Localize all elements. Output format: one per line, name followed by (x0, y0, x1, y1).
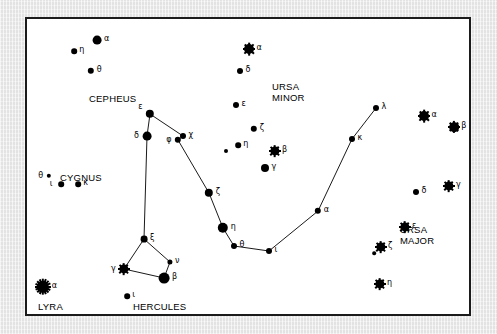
bayer-label-dra-eps: ε (138, 103, 142, 111)
star-dot (349, 136, 355, 142)
bayer-label-lyr-alpha: α (52, 282, 57, 290)
bayer-label-cep-eta: η (79, 46, 84, 54)
star-dot (233, 102, 239, 108)
bayer-label-her-beta: β (172, 273, 177, 281)
bayer-label-uma-alpha: α (432, 111, 437, 119)
bayer-label-umi-delta: δ (246, 66, 251, 74)
bayer-label-dra-alpha: α (324, 206, 329, 214)
star-dot (235, 142, 241, 148)
constellation-name-hercules: HERCULES (133, 301, 186, 312)
star-chart-frame: αηθαδεζηβγαβγδεζηλκαιθηζχφεδξνβγιθικα CE… (25, 17, 471, 316)
star-dot (88, 68, 94, 74)
bayer-label-umi-alpha: α (257, 44, 262, 52)
star-dot (419, 111, 429, 121)
star-dot (251, 126, 257, 132)
star-dot (159, 273, 170, 284)
bayer-label-dra-theta: θ (240, 241, 245, 249)
star-dot (175, 137, 181, 143)
bayer-label-cyg-theta: θ (38, 172, 43, 180)
star-dot (261, 164, 269, 172)
bayer-label-cep-alpha: α (104, 35, 109, 43)
star-dot (180, 133, 186, 139)
star-dot (143, 132, 152, 141)
bayer-label-uma-eta: η (387, 279, 392, 287)
constellation-name-lyra: LYRA (38, 301, 63, 312)
star-dot (413, 189, 419, 195)
star-dot (244, 44, 254, 54)
star-dot (237, 68, 243, 74)
bayer-label-uma-gamma: γ (456, 181, 461, 189)
star-dot (47, 174, 51, 178)
star-dot (141, 236, 148, 243)
bayer-label-dra-kappa: κ (358, 134, 363, 142)
bayer-label-dra-eta: η (231, 223, 236, 231)
star-dot (71, 48, 77, 54)
star-dot (315, 208, 321, 214)
star-dot (124, 293, 130, 299)
star-dot (373, 105, 379, 111)
star-dot (224, 149, 228, 153)
bayer-label-her-xi: ξ (150, 234, 154, 242)
bayer-label-uma-beta: β (461, 122, 466, 130)
bayer-label-dra-zeta: ζ (216, 188, 220, 196)
bayer-label-uma-delta: δ (422, 187, 427, 195)
constellation-name-ursa-minor: URSA MINOR (272, 81, 305, 103)
star-dot (218, 223, 228, 233)
constellation-name-cygnus: CYGNUS (60, 172, 102, 183)
bayer-label-umi-zeta: ζ (260, 124, 264, 132)
bayer-label-uma-zeta: ζ (388, 242, 392, 250)
bayer-label-umi-eta: η (243, 140, 248, 148)
bayer-label-umi-eps: ε (242, 100, 246, 108)
constellation-name-cepheus: CEPHEUS (89, 93, 136, 104)
star-dot (372, 251, 376, 255)
bayer-label-dra-iota: ι (275, 246, 278, 254)
bayer-label-umi-beta: β (282, 146, 287, 154)
bayer-label-dra-delta: δ (134, 132, 139, 140)
bayer-label-her-iota: ι (132, 291, 135, 299)
star-dot (93, 36, 102, 45)
bayer-label-umi-gamma: γ (272, 163, 277, 171)
page-background: αηθαδεζηβγαβγδεζηλκαιθηζχφεδξνβγιθικα CE… (0, 0, 497, 334)
bayer-label-cep-theta: θ (97, 66, 102, 74)
star-dot (167, 259, 172, 264)
bayer-label-dra-chi: χ (189, 131, 194, 139)
star-dot (231, 243, 237, 249)
star-dot (146, 110, 154, 118)
star-dot (205, 189, 213, 197)
bayer-label-cyg-iota: ι (50, 180, 53, 188)
bayer-label-dra-phi: φ (166, 136, 171, 144)
bayer-label-dra-lambda: λ (382, 103, 387, 111)
bayer-label-her-nu: ν (175, 257, 179, 265)
sky-field: αηθαδεζηβγαβγδεζηλκαιθηζχφεδξνβγιθικα CE… (27, 19, 469, 314)
bayer-label-her-gamma: γ (111, 265, 116, 273)
constellation-line-layer (27, 19, 469, 314)
constellation-name-ursa-major: URSA MAJOR (400, 224, 434, 246)
star-dot (266, 248, 272, 254)
star-dot (449, 122, 459, 132)
